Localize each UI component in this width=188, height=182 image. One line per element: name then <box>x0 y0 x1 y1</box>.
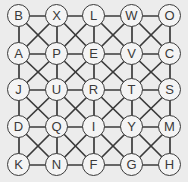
letter-node[interactable]: F <box>82 153 105 176</box>
letter-node[interactable]: N <box>45 153 68 176</box>
letter-node[interactable]: M <box>158 115 181 138</box>
letter-node[interactable]: J <box>7 78 30 101</box>
letter-node[interactable]: W <box>120 4 143 27</box>
letter-node[interactable]: U <box>45 78 68 101</box>
letter-node[interactable]: C <box>158 42 181 65</box>
letter-node[interactable]: V <box>120 42 143 65</box>
letter-node[interactable]: B <box>7 4 30 27</box>
letter-node[interactable]: S <box>158 78 181 101</box>
letter-node[interactable]: G <box>120 153 143 176</box>
letter-node[interactable]: Q <box>45 115 68 138</box>
letter-node[interactable]: E <box>82 42 105 65</box>
letter-node[interactable]: X <box>45 4 68 27</box>
letter-node[interactable]: H <box>158 153 181 176</box>
letter-node[interactable]: P <box>45 42 68 65</box>
letter-node[interactable]: K <box>7 153 30 176</box>
letter-node[interactable]: T <box>120 78 143 101</box>
letter-node[interactable]: D <box>7 115 30 138</box>
letter-node[interactable]: O <box>158 4 181 27</box>
letter-node[interactable]: A <box>7 42 30 65</box>
letter-node[interactable]: L <box>82 4 105 27</box>
letter-node[interactable]: R <box>82 78 105 101</box>
letter-node[interactable]: I <box>82 115 105 138</box>
letter-node[interactable]: Y <box>120 115 143 138</box>
letter-grid-board: BXLWOAPEVCJURTSDQIYMKNFGH <box>0 0 188 182</box>
